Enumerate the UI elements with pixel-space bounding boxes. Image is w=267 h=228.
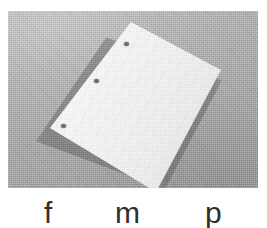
binder-hole-middle xyxy=(94,79,99,83)
photograph xyxy=(8,11,258,188)
binder-hole-top xyxy=(124,42,129,46)
caption-letter-p: p xyxy=(205,198,222,228)
caption-letter-m: m xyxy=(115,198,140,228)
figure-container: f m p xyxy=(0,0,267,228)
binder-hole-bottom xyxy=(61,124,66,128)
caption-letter-f: f xyxy=(44,198,52,228)
caption-row: f m p xyxy=(0,188,267,228)
